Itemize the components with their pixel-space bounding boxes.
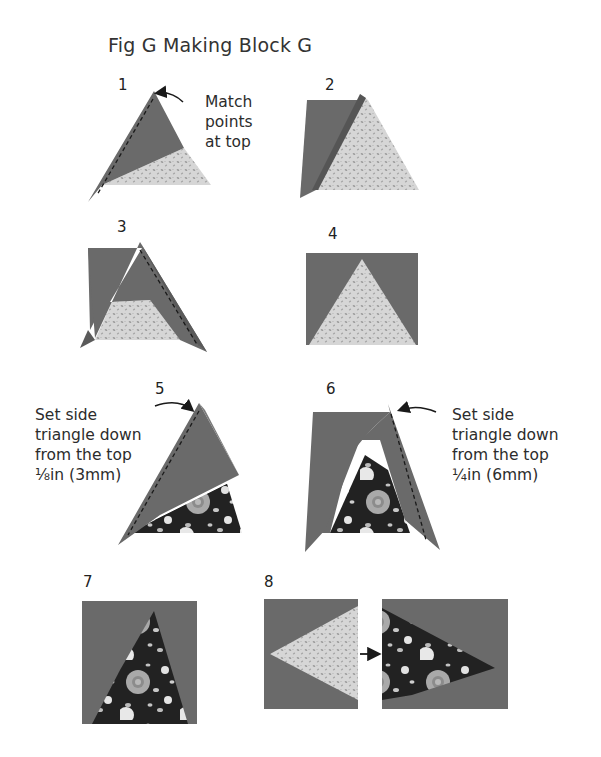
- block-g-diagram: [0, 0, 601, 757]
- step-6-illustration: [305, 404, 440, 552]
- step-4-illustration: [306, 253, 418, 345]
- step-5-illustration: [118, 403, 242, 545]
- step-8-illustration: [264, 599, 508, 709]
- step-3-illustration: [80, 242, 207, 352]
- step-1-illustration: [88, 91, 211, 202]
- step-7-illustration: [82, 601, 197, 724]
- step-2-illustration: [300, 94, 419, 198]
